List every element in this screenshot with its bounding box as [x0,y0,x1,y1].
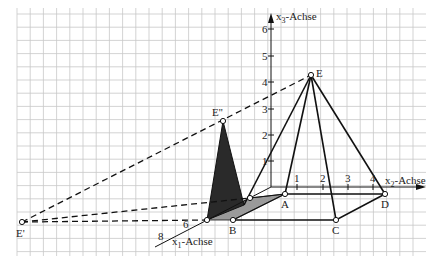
point-e [308,72,313,77]
point-e-dprime [220,118,225,123]
point-d [382,191,387,196]
point-s2 [247,195,252,200]
point-label-e-dprime: E'' [212,106,223,118]
x3-tick-label: 2 [262,129,268,141]
point-label-e: E [316,67,323,79]
point-s1 [204,217,209,222]
x3-axis-arrow [268,13,274,23]
diagram-canvas: 123456123468 x3-Achse x2-Achse x1-Achse … [0,0,442,270]
x3-tick-label: 1 [262,155,268,167]
point-label-b: B [229,224,236,236]
x2-tick-label: 1 [294,172,300,184]
dashed-line-eprime-to-s1 [22,220,207,222]
point-label-d: D [381,198,389,210]
point-label-c: C [332,224,339,236]
x3-tick-label: 4 [262,76,268,88]
point-a [282,191,287,196]
x1-tick-label: 8 [158,230,164,242]
x2-tick-label: 2 [320,172,326,184]
dark-shadow-triangle [207,121,244,220]
x3-tick-label: 5 [262,50,268,62]
edge-ec [311,75,336,220]
x1-axis-label: x1-Achse [172,235,213,250]
x1-tick-label: 6 [183,218,189,230]
x3-axis-label: x3-Achse [276,10,317,25]
x3-tick-label: 6 [262,23,268,35]
point-label-a: A [281,198,289,210]
point-b [230,217,235,222]
x2-tick-label: 3 [345,172,351,184]
x2-tick-label: 4 [370,172,376,184]
point-label-e-prime: E' [16,227,25,239]
point-e-prime [19,219,24,224]
x3-tick-label: 3 [262,103,268,115]
point-c [333,217,338,222]
